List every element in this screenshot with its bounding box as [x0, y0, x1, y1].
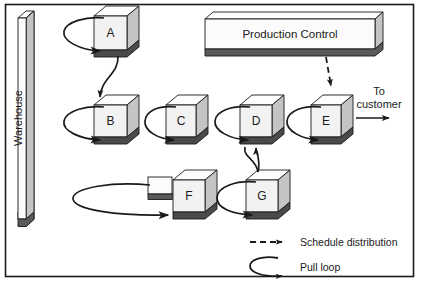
- diagram-svg: Warehouse Production Control A: [0, 0, 422, 286]
- node-box-g[interactable]: [246, 170, 290, 219]
- node-label-b: B: [106, 114, 114, 128]
- node-label-f: F: [185, 189, 192, 203]
- node-label-e: E: [322, 114, 330, 128]
- node-label-a: A: [106, 26, 114, 40]
- node-box-d[interactable]: [240, 95, 284, 144]
- production-control-label: Production Control: [242, 28, 337, 40]
- warehouse-label: Warehouse: [12, 90, 24, 146]
- diagram-canvas: Warehouse Production Control A: [0, 0, 422, 286]
- node-label-c: C: [177, 114, 186, 128]
- node-box-a[interactable]: [94, 6, 139, 57]
- node-box-f[interactable]: [173, 170, 217, 219]
- node-box-c[interactable]: [166, 95, 208, 144]
- node-box-b[interactable]: [94, 95, 139, 144]
- to-customer-label-line2: customer: [356, 98, 402, 110]
- to-customer-label-line1: To: [373, 85, 385, 97]
- node-label-d: D: [252, 114, 261, 128]
- legend-pull-loop-label: Pull loop: [300, 261, 340, 273]
- legend-schedule-label: Schedule distribution: [300, 236, 398, 248]
- node-box-e[interactable]: [311, 95, 353, 144]
- node-label-g: G: [257, 189, 266, 203]
